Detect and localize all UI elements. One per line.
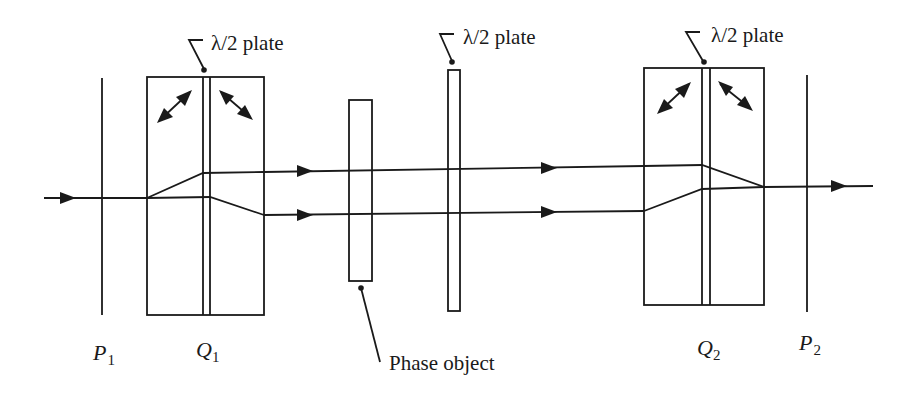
plate-label-middle: λ/2 plate [440, 25, 536, 65]
svg-text:λ/2 plate: λ/2 plate [463, 25, 536, 49]
polarization-double-arrow-icon [219, 90, 253, 120]
label-q1: Q1 [196, 337, 219, 365]
label-p2: P2 [798, 330, 821, 358]
svg-text:λ/2 plate: λ/2 plate [211, 31, 284, 55]
polarization-double-arrow-icon [157, 90, 192, 123]
displacer-q1 [147, 77, 264, 315]
phase-object [349, 100, 372, 281]
svg-text:λ/2 plate: λ/2 plate [711, 23, 784, 47]
label-q2: Q2 [697, 335, 720, 363]
phase-object-label: Phase object [358, 285, 495, 375]
optical-diagram: λ/2 plate Phase object λ/2 plate [0, 0, 910, 397]
label-p1: P1 [92, 340, 115, 368]
displacer-q2 [644, 68, 764, 305]
half-wave-plate-middle [448, 70, 460, 311]
plate-label-right: λ/2 plate [686, 23, 784, 65]
polarization-double-arrow-icon [718, 81, 753, 111]
svg-text:Phase object: Phase object [389, 351, 495, 375]
plate-label-left: λ/2 plate [189, 31, 284, 73]
beam-path [44, 162, 873, 221]
polarization-double-arrow-icon [657, 82, 691, 114]
